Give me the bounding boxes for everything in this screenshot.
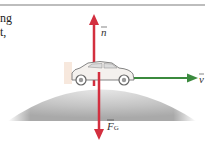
gravity-force-label: FG	[107, 120, 119, 132]
velocity-label: v	[199, 73, 204, 85]
force-diagram	[0, 0, 205, 146]
gravity-subscript: G	[114, 124, 119, 132]
diagram: ng t,	[0, 0, 205, 146]
gravity-symbol: F	[107, 120, 114, 132]
normal-force-label: n	[101, 26, 107, 38]
